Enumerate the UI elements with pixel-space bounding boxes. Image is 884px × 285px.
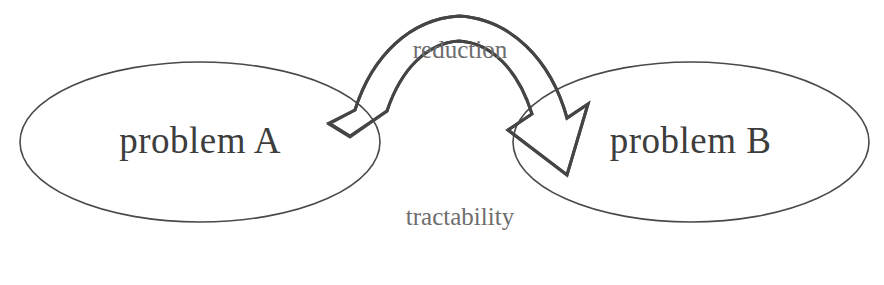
node-label-problem-a: problem A (20, 119, 380, 162)
diagram-canvas: problem A problem B reduction tractabili… (0, 0, 884, 285)
edge-label-tractability: tractability (360, 203, 560, 231)
node-label-problem-b: problem B (512, 119, 869, 162)
edge-label-reduction: reduction (360, 36, 560, 64)
